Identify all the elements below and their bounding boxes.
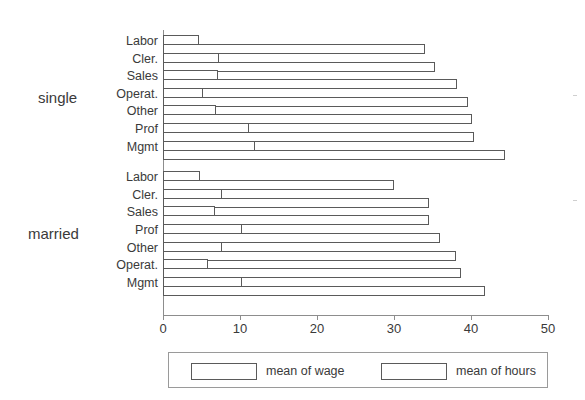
x-tick-label-30: 30 xyxy=(387,321,401,336)
category-label-single-sales: Sales xyxy=(18,71,158,82)
bar-hours-single-mgmt xyxy=(163,150,505,160)
category-label-married-mgmt: Mgmt xyxy=(18,278,158,289)
category-label-married-cler: Cler. xyxy=(18,190,158,201)
category-label-single-operat: Operat. xyxy=(18,89,158,100)
legend-swatch-wage xyxy=(191,363,257,380)
chart-legend: mean of wage mean of hours xyxy=(168,352,548,388)
category-label-single-labor: Labor xyxy=(18,36,158,47)
x-tick-50 xyxy=(548,315,549,320)
category-label-married-other: Other xyxy=(18,243,158,254)
category-label-single-mgmt: Mgmt xyxy=(18,142,158,153)
legend-item-wage: mean of wage xyxy=(191,361,345,381)
x-tick-10 xyxy=(240,315,241,320)
x-tick-label-10: 10 xyxy=(233,321,247,336)
x-tick-label-50: 50 xyxy=(541,321,555,336)
page-edge-mark-bottom xyxy=(573,200,577,201)
category-label-single-cler: Cler. xyxy=(18,54,158,65)
category-label-single-prof: Prof xyxy=(18,124,158,135)
legend-item-hours: mean of hours xyxy=(381,361,536,381)
chart-figure: single married LaborCler.SalesOperat.Oth… xyxy=(0,0,585,400)
category-label-married-operat: Operat. xyxy=(18,260,158,271)
category-label-single-other: Other xyxy=(18,106,158,117)
legend-label-wage: mean of wage xyxy=(266,364,345,378)
x-tick-label-20: 20 xyxy=(310,321,324,336)
bar-hours-married-mgmt xyxy=(163,286,485,296)
x-tick-40 xyxy=(471,315,472,320)
legend-swatch-hours xyxy=(381,363,447,380)
x-tick-label-40: 40 xyxy=(464,321,478,336)
category-label-married-labor: Labor xyxy=(18,172,158,183)
page-edge-mark-top xyxy=(573,95,577,96)
x-tick-0 xyxy=(163,315,164,320)
bar-hours-single-sales xyxy=(163,79,457,89)
x-axis-line xyxy=(163,315,548,316)
x-tick-30 xyxy=(394,315,395,320)
category-label-married-sales: Sales xyxy=(18,207,158,218)
x-tick-label-0: 0 xyxy=(159,321,166,336)
x-tick-20 xyxy=(317,315,318,320)
legend-label-hours: mean of hours xyxy=(456,364,536,378)
category-label-married-prof: Prof xyxy=(18,225,158,236)
